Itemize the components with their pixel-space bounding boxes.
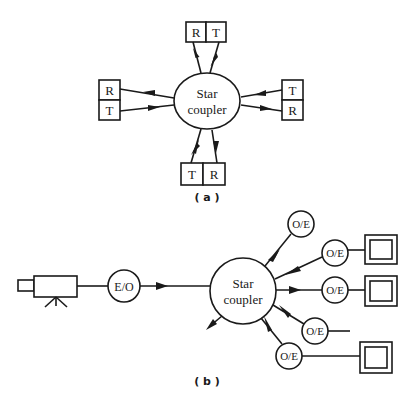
monitor-icon: [360, 342, 392, 373]
arrow-icon: [285, 266, 301, 275]
svg-text:O/E: O/E: [280, 350, 298, 362]
node-top: R T: [186, 22, 226, 42]
node-right-first: T: [289, 83, 297, 98]
coupler-b-label-line1: Star: [233, 276, 255, 291]
svg-text:O/E: O/E: [292, 218, 310, 230]
coupler-label-line2: coupler: [188, 102, 228, 117]
monitor-icon: [365, 276, 397, 306]
eo-label: E/O: [114, 280, 134, 294]
coupler-b-label-line2: coupler: [224, 292, 264, 307]
star-coupler-a: Star coupler: [174, 73, 240, 129]
figure-a: Star coupler R T R T T: [99, 22, 303, 204]
node-bottom: T R: [181, 163, 225, 185]
oe-receiver-4: O/E: [302, 318, 328, 344]
oe-receiver-5: O/E: [276, 343, 302, 369]
node-left: R T: [99, 80, 120, 120]
svg-text:O/E: O/E: [306, 325, 324, 337]
arrow-icon: [289, 286, 301, 294]
link-left-t: [120, 105, 174, 111]
oe-receiver-3: O/E: [322, 277, 348, 303]
caption-b: ( b ): [194, 375, 220, 388]
arrow-icon: [193, 48, 200, 58]
arrow-icon: [279, 305, 291, 318]
monitor-icon: [365, 235, 397, 264]
video-camera-icon: [18, 276, 77, 307]
svg-text:O/E: O/E: [326, 247, 344, 259]
arrow-icon: [260, 105, 272, 111]
coupler-label-line1: Star: [197, 86, 219, 101]
arrow-icon: [254, 90, 266, 96]
node-top-second: T: [212, 25, 220, 40]
node-top-first: R: [192, 25, 201, 40]
oe-receiver-1: O/E: [288, 211, 314, 237]
arrow-icon: [148, 105, 160, 111]
caption-a: ( a ): [194, 191, 219, 204]
node-right-second: R: [288, 103, 297, 118]
arrow-icon: [156, 282, 168, 290]
branch-1: [265, 234, 291, 266]
svg-text:O/E: O/E: [326, 284, 344, 296]
oe-receiver-2: O/E: [322, 240, 348, 266]
branch-5: [261, 318, 282, 344]
node-bottom-second: R: [210, 167, 219, 182]
node-bottom-first: T: [188, 167, 196, 182]
eo-transmitter: E/O: [108, 270, 140, 302]
star-coupler-b: Star coupler: [210, 258, 276, 324]
figure: Star coupler R T R T T: [0, 0, 415, 403]
node-right: T R: [282, 80, 303, 120]
node-left-second: T: [106, 103, 114, 118]
figure-b: E/O Star coupler O/E O/E: [18, 211, 397, 388]
link-left-r: [120, 89, 174, 98]
node-left-first: R: [105, 83, 114, 98]
